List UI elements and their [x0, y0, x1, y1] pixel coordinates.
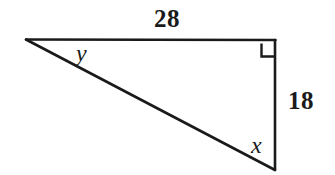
- triangle-side-hypotenuse: [26, 40, 275, 171]
- triangle-side-top: [26, 40, 276, 41]
- triangle-figure: 28 18 y x: [0, 0, 335, 175]
- right-angle-marker-icon: [262, 44, 275, 57]
- angle-label-y: y: [76, 41, 87, 65]
- side-length-label-right: 18: [288, 88, 314, 113]
- side-length-label-top: 28: [154, 6, 180, 31]
- angle-label-x: x: [251, 133, 262, 157]
